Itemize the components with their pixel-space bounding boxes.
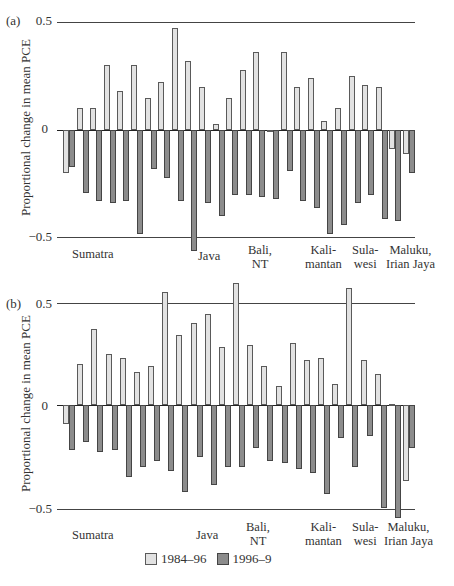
- y-tick-bottom-a: −0.5: [12, 229, 52, 245]
- bar: [290, 343, 296, 405]
- y-axis-label-a: Proportional change in mean PCE: [18, 39, 34, 216]
- bar: [154, 405, 160, 461]
- bar: [205, 314, 211, 405]
- gridline-0.5-a: [57, 22, 415, 23]
- bar: [239, 405, 245, 467]
- region-label-sula-line2: wesi: [352, 257, 378, 271]
- legend-swatch-dark: [217, 553, 229, 565]
- region-label-kali-line2: mantan: [305, 257, 342, 271]
- bar: [172, 28, 178, 130]
- region-label-java-b: Java: [196, 528, 218, 542]
- y-tick-bottom-b: −0.5: [12, 501, 52, 517]
- bar: [120, 358, 126, 405]
- bar: [104, 65, 110, 130]
- bar: [134, 372, 140, 405]
- bar: [137, 130, 143, 234]
- bar: [219, 130, 225, 216]
- bar: [191, 130, 197, 251]
- bar: [69, 405, 75, 450]
- bar: [226, 98, 232, 130]
- chart-panel-a: (a) 0.5 0 −0.5 Proportional change in me…: [0, 0, 454, 285]
- bar: [219, 347, 225, 405]
- bar: [131, 65, 137, 130]
- bar: [145, 98, 151, 130]
- bar: [90, 108, 96, 130]
- legend-label-1996-9: 1996–9: [233, 551, 272, 567]
- bar: [381, 405, 387, 508]
- region-label-maluku-line2-b: Irian Jaya: [384, 534, 433, 548]
- bar: [395, 130, 401, 221]
- bar: [314, 130, 320, 208]
- bar: [178, 130, 184, 201]
- bar: [355, 130, 361, 203]
- bar: [349, 76, 355, 130]
- bar: [327, 130, 333, 234]
- region-label-bali-line1: Bali,: [248, 243, 272, 257]
- bar: [253, 405, 259, 448]
- bar: [362, 85, 368, 130]
- bar: [83, 405, 89, 442]
- gridline-neg0.5-b: [57, 509, 415, 510]
- bar: [281, 52, 287, 130]
- bar: [162, 292, 168, 405]
- bar: [233, 283, 239, 405]
- legend-item-1996-9: 1996–9: [217, 551, 272, 567]
- y-axis-label-b: Proportional change in mean PCE: [18, 315, 34, 492]
- region-label-maluku-line2: Irian Jaya: [386, 257, 435, 271]
- bar: [191, 323, 197, 405]
- bar: [123, 130, 129, 201]
- region-label-sula-line2-b: wesi: [352, 534, 378, 548]
- region-label-kali-line1-b: Kali-: [305, 520, 342, 534]
- bar: [395, 405, 401, 518]
- bar: [308, 78, 314, 130]
- bar: [352, 405, 358, 467]
- bar: [148, 366, 154, 405]
- region-label-kalimantan-a: Kali- mantan: [305, 243, 342, 271]
- bar: [296, 405, 302, 469]
- bar: [197, 405, 203, 457]
- bar: [375, 374, 381, 405]
- bar: [164, 130, 170, 178]
- bar: [409, 405, 415, 448]
- bar: [304, 360, 310, 405]
- region-label-maluku-a: Maluku, Irian Jaya: [386, 243, 435, 271]
- region-label-kali-line2-b: mantan: [305, 534, 342, 548]
- bar: [341, 130, 347, 225]
- bar: [185, 61, 191, 130]
- bar: [376, 87, 382, 130]
- bar: [247, 345, 253, 405]
- region-label-sulawesi-a: Sula- wesi: [352, 243, 378, 271]
- region-label-sula-line1: Sula-: [352, 243, 378, 257]
- bar: [77, 108, 83, 130]
- bar: [259, 130, 265, 197]
- bar: [367, 405, 373, 436]
- gridline-neg0.5-a: [57, 237, 415, 238]
- bar: [83, 130, 89, 193]
- bar: [324, 405, 330, 494]
- bar: [232, 130, 238, 195]
- region-label-kali-line1: Kali-: [305, 243, 342, 257]
- bar: [382, 130, 388, 219]
- bar: [77, 364, 83, 405]
- region-label-kalimantan-b: Kali- mantan: [305, 520, 342, 548]
- bar: [361, 360, 367, 405]
- bar: [282, 405, 288, 463]
- chart-panel-b: (b) 0.5 0 −0.5 Proportional change in me…: [0, 280, 454, 530]
- legend-label-1984-96: 1984–96: [161, 551, 207, 567]
- bar: [97, 405, 103, 452]
- bar: [332, 384, 338, 405]
- bar: [117, 91, 123, 130]
- bar: [368, 130, 374, 195]
- bar: [409, 130, 415, 173]
- bar: [69, 130, 75, 167]
- bar: [318, 358, 324, 405]
- region-label-bali-line1-b: Bali,: [246, 520, 270, 534]
- bar: [294, 87, 300, 130]
- bar: [158, 82, 164, 130]
- y-tick-top-b: 0.5: [12, 296, 52, 312]
- bar: [240, 70, 246, 130]
- region-label-sula-line1-b: Sula-: [352, 520, 378, 534]
- bar: [276, 386, 282, 405]
- bar: [91, 329, 97, 405]
- bar: [300, 130, 306, 201]
